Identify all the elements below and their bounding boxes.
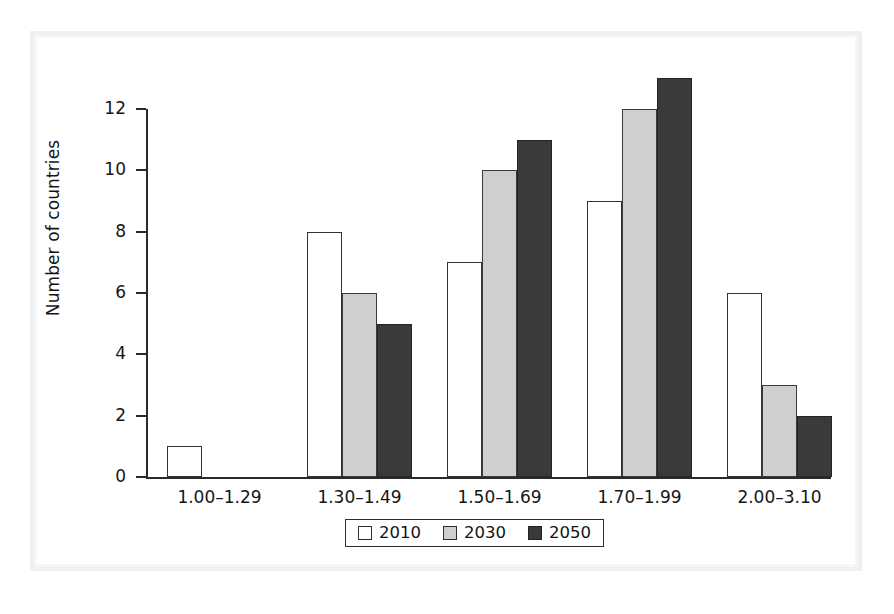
bar-2010-1.70–1.99 xyxy=(587,201,622,477)
y-tick-label-6: 6 xyxy=(78,282,126,302)
legend-label-2030: 2030 xyxy=(464,523,506,542)
x-category-label-4: 1.70–1.99 xyxy=(565,487,714,507)
bar-2050-1.70–1.99 xyxy=(657,78,692,477)
legend-item-2050: 2050 xyxy=(528,523,591,542)
bar-2010-1.50–1.69 xyxy=(447,262,482,477)
legend-item-2010: 2010 xyxy=(358,523,421,542)
bar-2050-2.00–3.10 xyxy=(797,416,832,477)
bar-2030-1.30–1.49 xyxy=(342,293,377,477)
y-tick-label-2: 2 xyxy=(78,405,126,425)
legend-label-2010: 2010 xyxy=(379,523,421,542)
bar-2030-1.70–1.99 xyxy=(622,109,657,477)
y-tick-10 xyxy=(136,169,146,171)
y-tick-8 xyxy=(136,231,146,233)
legend-label-2050: 2050 xyxy=(549,523,591,542)
x-category-label-5: 2.00–3.10 xyxy=(705,487,854,507)
x-category-label-1: 1.00–1.29 xyxy=(145,487,294,507)
y-tick-0 xyxy=(136,476,146,478)
y-axis-line xyxy=(146,109,148,479)
bar-2010-2.00–3.10 xyxy=(727,293,762,477)
bar-2030-1.50–1.69 xyxy=(482,170,517,477)
y-tick-4 xyxy=(136,353,146,355)
bar-2010-1.30–1.49 xyxy=(307,232,342,477)
dark-gray-square-swatch-icon xyxy=(528,526,542,540)
y-tick-label-8: 8 xyxy=(78,221,126,241)
y-tick-label-4: 4 xyxy=(78,343,126,363)
x-category-label-3: 1.50–1.69 xyxy=(425,487,574,507)
y-tick-label-0: 0 xyxy=(78,466,126,486)
y-tick-2 xyxy=(136,415,146,417)
y-axis-label: Number of countries xyxy=(43,113,63,343)
y-tick-label-10: 10 xyxy=(78,159,126,179)
legend-item-2030: 2030 xyxy=(443,523,506,542)
x-axis-line xyxy=(146,477,831,479)
x-category-label-2: 1.30–1.49 xyxy=(285,487,434,507)
light-gray-square-swatch-icon xyxy=(443,526,457,540)
y-tick-6 xyxy=(136,292,146,294)
y-tick-label-12: 12 xyxy=(78,98,126,118)
y-tick-12 xyxy=(136,108,146,110)
white-square-swatch-icon xyxy=(358,526,372,540)
bar-2050-1.50–1.69 xyxy=(517,140,552,477)
bar-2050-1.30–1.49 xyxy=(377,324,412,477)
chart-page: Number of countries 024681012 1.00–1.291… xyxy=(0,0,894,614)
bar-2030-2.00–3.10 xyxy=(762,385,797,477)
grouped-bar-chart: Number of countries 024681012 1.00–1.291… xyxy=(0,0,894,614)
chart-legend: 2010 2030 2050 xyxy=(345,519,604,547)
bar-2010-1.00–1.29 xyxy=(167,446,202,477)
